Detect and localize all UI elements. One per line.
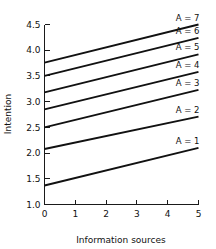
series-label: A = 1 xyxy=(176,136,200,146)
y-tick-label: 3.5 xyxy=(26,71,40,81)
y-axis-title: Intention xyxy=(3,94,13,134)
x-tick-label: 1 xyxy=(72,209,78,219)
series-label: A = 3 xyxy=(176,78,200,88)
chart-container: 1.01.52.02.53.03.54.04.5 012345 A = 7A =… xyxy=(0,0,216,249)
x-tick-label: 2 xyxy=(103,209,109,219)
x-tick-label: 5 xyxy=(196,209,202,219)
y-tick-label: 3.0 xyxy=(26,97,41,107)
series-label: A = 7 xyxy=(176,13,200,23)
y-tick-label: 1.0 xyxy=(26,200,41,210)
x-tick-label: 3 xyxy=(134,209,140,219)
y-tick-label: 1.5 xyxy=(26,174,40,184)
series-label: A = 6 xyxy=(176,26,200,36)
series-label: A = 5 xyxy=(176,42,200,52)
x-tick-label: 0 xyxy=(42,209,48,219)
y-tick-label: 4.0 xyxy=(26,45,41,55)
line-chart: 1.01.52.02.53.03.54.04.5 012345 A = 7A =… xyxy=(0,0,216,249)
y-tick-label: 2.0 xyxy=(26,148,41,158)
x-axis-title: Information sources xyxy=(76,235,166,245)
y-tick-label: 2.5 xyxy=(26,123,40,133)
x-tick-label: 4 xyxy=(165,209,171,219)
series-label: A = 4 xyxy=(176,60,200,70)
y-tick-label: 4.5 xyxy=(26,20,40,30)
series-label: A = 2 xyxy=(176,105,200,115)
